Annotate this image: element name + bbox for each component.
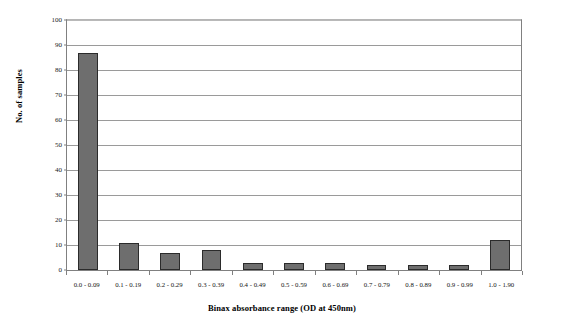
x-axis-tick-labels: 0.0 - 0.090.1 - 0.190.2 - 0.290.3 - 0.39… xyxy=(66,281,522,288)
bar-slot xyxy=(273,20,314,270)
x-tick-mark xyxy=(66,271,67,275)
y-tick-label: 30 xyxy=(28,191,67,199)
y-tick-label: 70 xyxy=(28,91,67,99)
y-tick-label: 90 xyxy=(28,41,67,49)
x-axis-tick-marks xyxy=(66,271,522,277)
x-tick-label: 0.1 - 0.19 xyxy=(107,281,148,288)
bar[interactable] xyxy=(367,265,387,270)
bar[interactable] xyxy=(202,250,222,270)
x-tick-label: 0.2 - 0.29 xyxy=(149,281,190,288)
bar-slot xyxy=(191,20,232,270)
bar-slot xyxy=(480,20,521,270)
x-tick-mark xyxy=(149,271,150,275)
y-tick-label: 0 xyxy=(28,266,67,274)
bar[interactable] xyxy=(325,263,345,271)
x-tick-mark xyxy=(439,271,440,275)
x-tick-mark xyxy=(232,271,233,275)
x-tick-label: 0.6 - 0.69 xyxy=(315,281,356,288)
x-tick-label: 0.0 - 0.09 xyxy=(66,281,107,288)
x-tick-label: 0.7 - 0.79 xyxy=(356,281,397,288)
bar-series xyxy=(67,20,521,270)
bar[interactable] xyxy=(243,263,263,271)
y-tick-label: 40 xyxy=(28,166,67,174)
x-tick-label: 0.3 - 0.39 xyxy=(190,281,231,288)
bar-slot xyxy=(356,20,397,270)
x-tick-mark xyxy=(273,271,274,275)
x-tick-label: 0.8 - 0.89 xyxy=(398,281,439,288)
x-tick-mark xyxy=(522,271,523,275)
x-axis-title: Binax absorbance range (OD at 450nm) xyxy=(0,303,564,313)
bar-chart-figure: No. of samples 0102030405060708090100 0.… xyxy=(0,0,564,321)
plot-area: 0102030405060708090100 xyxy=(66,19,522,271)
x-tick-label: 0.5 - 0.59 xyxy=(273,281,314,288)
bar-slot xyxy=(397,20,438,270)
y-tick-label: 60 xyxy=(28,116,67,124)
y-tick-label: 50 xyxy=(28,141,67,149)
x-tick-mark xyxy=(107,271,108,275)
bar[interactable] xyxy=(78,53,98,271)
bar-slot xyxy=(67,20,108,270)
y-axis-title: No. of samples xyxy=(14,36,24,156)
bar[interactable] xyxy=(490,240,510,270)
bar[interactable] xyxy=(160,253,180,271)
y-tick-label: 100 xyxy=(28,16,67,24)
bar-slot xyxy=(232,20,273,270)
y-tick-label: 20 xyxy=(28,216,67,224)
x-tick-mark xyxy=(356,271,357,275)
bar[interactable] xyxy=(284,263,304,271)
x-tick-label: 0.4 - 0.49 xyxy=(232,281,273,288)
x-tick-mark xyxy=(481,271,482,275)
bar-slot xyxy=(108,20,149,270)
x-tick-mark xyxy=(315,271,316,275)
bar[interactable] xyxy=(449,265,469,270)
x-tick-mark xyxy=(190,271,191,275)
bar[interactable] xyxy=(119,243,139,271)
bar-slot xyxy=(438,20,479,270)
bar-slot xyxy=(315,20,356,270)
x-tick-mark xyxy=(398,271,399,275)
bar-slot xyxy=(150,20,191,270)
y-tick-label: 80 xyxy=(28,66,67,74)
bar[interactable] xyxy=(408,265,428,270)
x-tick-label: 0.9 - 0.99 xyxy=(439,281,480,288)
x-tick-label: 1.0 - 1.90 xyxy=(481,281,522,288)
y-tick-label: 10 xyxy=(28,241,67,249)
